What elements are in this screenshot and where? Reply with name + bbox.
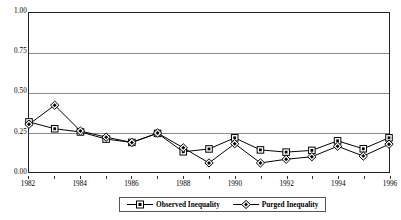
- filled-diamond-marker-icon: [233, 200, 259, 209]
- x-axis-tick-mark: [106, 176, 107, 179]
- filled-diamond-marker-icon: [282, 155, 290, 163]
- open-square-marker-icon: [127, 200, 153, 209]
- legend-item-observed: Observed Inequality: [127, 200, 220, 209]
- filled-diamond-marker-icon: [205, 159, 213, 167]
- series-layer: [29, 13, 389, 172]
- x-axis-tick-mark: [338, 176, 339, 179]
- x-axis-tick-label: 1992: [270, 180, 304, 189]
- x-axis-tick-mark: [390, 176, 391, 179]
- y-axis-tick-label: 0.75: [1, 48, 27, 55]
- y-axis-tick-label: 0.00: [1, 169, 27, 176]
- x-axis-tick-mark: [183, 176, 184, 179]
- y-axis-tick-label: 0.50: [1, 88, 27, 95]
- line-chart: 1.00 0.75 0.50 0.25 0.00 198219841986198…: [0, 0, 401, 220]
- legend-label-observed: Observed Inequality: [156, 201, 220, 209]
- legend-label-purged: Purged Inequality: [262, 201, 319, 209]
- x-axis-tick-mark: [131, 176, 132, 179]
- x-axis-tick-label: 1982: [11, 180, 45, 189]
- x-axis-tick-mark: [312, 176, 313, 179]
- x-axis: 19821984198619881990199219941996: [28, 176, 390, 190]
- x-axis-tick-label: 1986: [114, 180, 148, 189]
- x-axis-tick-mark: [364, 176, 365, 179]
- filled-diamond-marker-icon: [256, 159, 264, 167]
- x-axis-tick-mark: [80, 176, 81, 179]
- x-axis-tick-label: 1996: [373, 180, 401, 189]
- legend: Observed Inequality Purged Inequality: [119, 197, 326, 212]
- x-axis-tick-mark: [54, 176, 55, 179]
- open-square-marker-icon: [360, 146, 367, 153]
- x-axis-tick-mark: [287, 176, 288, 179]
- legend-item-purged: Purged Inequality: [233, 200, 319, 209]
- x-axis-tick-mark: [28, 176, 29, 179]
- x-axis-tick-label: 1990: [218, 180, 252, 189]
- filled-diamond-marker-icon: [359, 152, 367, 160]
- y-axis-tick-label: 1.00: [1, 8, 27, 15]
- open-square-marker-icon: [257, 147, 264, 154]
- open-square-marker-icon: [51, 125, 58, 132]
- plot-area: [28, 12, 390, 173]
- x-axis-tick-label: 1984: [63, 180, 97, 189]
- x-axis-tick-mark: [261, 176, 262, 179]
- x-axis-tick-mark: [209, 176, 210, 179]
- y-axis-tick-label: 0.25: [1, 129, 27, 136]
- x-axis-tick-label: 1988: [166, 180, 200, 189]
- open-square-marker-icon: [283, 149, 290, 156]
- x-axis-tick-mark: [157, 176, 158, 179]
- x-axis-tick-label: 1994: [321, 180, 355, 189]
- open-square-marker-icon: [206, 146, 213, 153]
- x-axis-tick-mark: [235, 176, 236, 179]
